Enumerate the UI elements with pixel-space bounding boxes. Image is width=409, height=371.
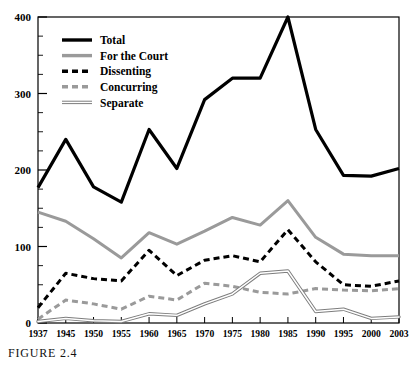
y-axis-tick-labels: 4003002001000: [15, 11, 32, 329]
y-tick-label: 400: [15, 11, 32, 23]
legend-label: Separate: [100, 97, 143, 110]
x-tick-label: 1970: [195, 328, 214, 339]
x-tick-label: 1965: [167, 328, 186, 339]
figure-container: 4003002001000 19371945195019551960196519…: [0, 0, 409, 371]
x-tick-label: 1955: [112, 328, 131, 339]
legend-label: Total: [100, 34, 125, 46]
figure-caption: FIGURE 2.4: [8, 346, 77, 361]
x-tick-label: 1950: [84, 328, 103, 339]
x-tick-label: 1990: [306, 328, 325, 339]
legend-label: Dissenting: [100, 65, 151, 78]
x-tick-label: 1937: [28, 328, 47, 339]
y-tick-label: 200: [15, 164, 32, 176]
x-tick-label: 1945: [56, 328, 75, 339]
x-tick-label: 2000: [362, 328, 381, 339]
x-tick-label: 1960: [139, 328, 158, 339]
x-tick-label: 1975: [223, 328, 242, 339]
x-tick-label: 1985: [278, 328, 297, 339]
y-tick-label: 300: [15, 88, 32, 100]
y-tick-label: 100: [15, 241, 32, 253]
legend-label: For the Court: [100, 50, 168, 62]
x-tick-label: 1995: [334, 328, 353, 339]
x-tick-label: 1980: [251, 328, 270, 339]
legend-label: Concurring: [100, 81, 158, 94]
x-axis-tick-labels: 1937194519501955196019651970197519801985…: [28, 328, 408, 339]
line-chart: 4003002001000 19371945195019551960196519…: [0, 0, 409, 340]
x-tick-label: 2003: [389, 328, 408, 339]
